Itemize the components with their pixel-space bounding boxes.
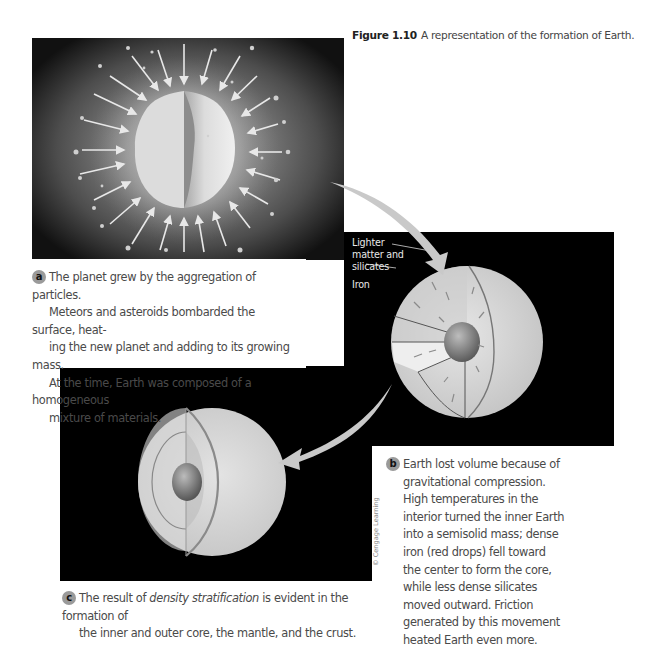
accretion-diagram [32, 38, 344, 260]
text-line: gravitational compression. [386, 475, 546, 489]
text-line: Earth lost volume because of [403, 457, 560, 471]
text-line: the center to form the core, [386, 563, 552, 577]
label-lighter-matter: Lighter matter and silicates [352, 237, 404, 273]
paragraph: cThe result of density stratification is… [62, 590, 400, 643]
figure-number: Figure 1.10 [352, 29, 417, 41]
text-line: generated by this movement [386, 615, 560, 629]
paragraph: bEarth lost volume because of gravitatio… [386, 456, 574, 650]
text-line: interior turned the inner Earth [386, 510, 564, 524]
panel-a-accretion-illustration [32, 38, 344, 260]
badge-b: b [386, 457, 400, 471]
text-line: into a semisolid mass; dense [386, 527, 558, 541]
text-line: The result of [79, 591, 149, 605]
label-line: silicates [352, 261, 404, 273]
text-line: High temperatures in the [386, 492, 538, 506]
paragraph: aThe planet grew by the aggregation of p… [32, 269, 296, 427]
text-line: At the time, Earth was composed of a hom… [32, 376, 251, 408]
badge-c: c [62, 591, 76, 605]
panel-b-differentiation-illustration: Lighter matter and silicates Iron [344, 232, 614, 446]
text-line: The planet grew by the aggregation of pa… [32, 270, 256, 302]
panel-c-description: cThe result of density stratification is… [60, 582, 400, 643]
label-line: matter and [352, 249, 404, 261]
panel-b-description: bEarth lost volume because of gravitatio… [374, 446, 574, 650]
text-line: while less dense silicates [386, 580, 537, 594]
iron-core [444, 322, 480, 362]
text-line: heated Earth even more. [386, 633, 537, 647]
text-line: ing the new planet and adding to its gro… [32, 340, 290, 372]
text-line: the inner and outer core, the mantle, an… [62, 626, 356, 640]
text-line: iron (red drops) fell toward [386, 545, 546, 559]
figure-title: A representation of the formation of Ear… [421, 29, 634, 41]
inner-core [172, 463, 202, 501]
badge-a: a [32, 270, 46, 284]
label-iron: Iron [352, 279, 370, 291]
emphasis-term: density stratification [149, 591, 259, 605]
text-line: moved outward. Friction [386, 598, 533, 612]
panel-a-description: aThe planet grew by the aggregation of p… [18, 259, 306, 368]
text-line: mixture of materials. [32, 411, 161, 425]
figure-caption: Figure 1.10A representation of the forma… [352, 29, 634, 41]
label-line: Lighter [352, 237, 404, 249]
copyright-credit: © Cengage Learning [372, 497, 380, 566]
text-line: Meteors and asteroids bombarded the surf… [32, 305, 255, 337]
